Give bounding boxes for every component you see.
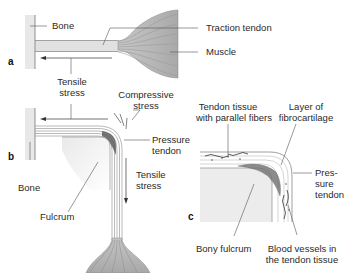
- label-pressure-tendon-b: Pressure tendon: [152, 134, 190, 156]
- muscle-b: [86, 238, 150, 273]
- label-blood-vessels: Blood vessels in the tendon tissue: [262, 243, 342, 265]
- panel-letter-a: a: [8, 56, 14, 67]
- label-tensile-stress-a: Tensile stress: [54, 76, 90, 98]
- label-traction-tendon: Traction tendon: [206, 22, 272, 33]
- panel-b-drawing: [25, 104, 150, 273]
- panel-letter-b: b: [8, 151, 14, 162]
- label-compressive-stress: Compressive stress: [118, 89, 174, 111]
- label-bony-fulcrum: Bony fulcrum: [196, 243, 251, 254]
- label-fibrocartilage: Layer of fibrocartilage: [276, 101, 336, 123]
- label-muscle: Muscle: [206, 46, 236, 57]
- bony-fulcrum-c: [200, 168, 272, 222]
- label-tendon-tissue: Tendon tissue with parallel fibers: [196, 101, 260, 123]
- label-fulcrum: Fulcrum: [40, 211, 74, 222]
- label-bone-b: Bone: [18, 182, 40, 193]
- label-pressure-tendon-c: Pres- sure tendon: [315, 167, 344, 200]
- panel-c-drawing: [200, 124, 312, 236]
- label-bone-a: Bone: [52, 20, 74, 31]
- panel-a-drawing: [25, 10, 198, 78]
- bone-a: [25, 15, 35, 69]
- label-tensile-stress-b: Tensile stress: [136, 169, 166, 191]
- panel-letter-c: c: [188, 211, 194, 222]
